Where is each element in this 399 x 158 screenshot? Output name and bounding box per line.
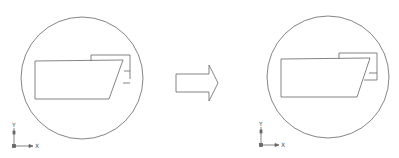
before-tab [91, 55, 130, 79]
block-arrow-right-icon [176, 65, 218, 101]
after-x-label: X [281, 141, 285, 148]
before-parallelogram [35, 60, 123, 99]
after-tab [339, 53, 377, 80]
after-parallelogram [281, 58, 370, 97]
after-y-label: Y [258, 120, 263, 127]
after-axis-icon [260, 127, 280, 147]
before-x-label: X [35, 142, 39, 149]
before-circle [21, 17, 143, 139]
before-y-label: Y [11, 121, 16, 128]
before-axis-icon [13, 128, 34, 148]
after-circle [267, 16, 389, 138]
after-view [267, 16, 389, 138]
diagram-canvas: Y X Y X [0, 0, 399, 158]
before-view [21, 17, 143, 139]
